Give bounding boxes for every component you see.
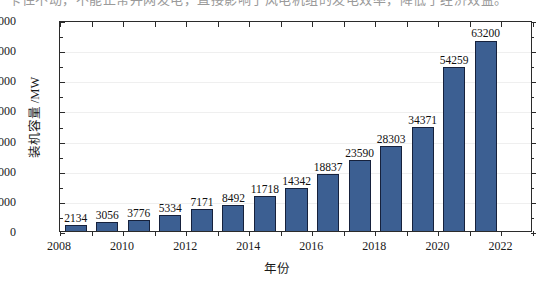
y-axis-tick-right: [531, 173, 536, 174]
bar: [285, 188, 307, 231]
bar-value-label: 63200: [451, 27, 521, 39]
bar: [443, 67, 465, 231]
y-axis-minor-tick-right: [531, 97, 534, 98]
bar: [222, 205, 244, 231]
bar: [475, 41, 497, 232]
plot-area: 2134305637765334717184921171814342188372…: [59, 21, 532, 232]
x-axis-tick-label: 2014: [218, 239, 278, 254]
bar: [254, 196, 276, 231]
x-axis-tick: [92, 231, 93, 236]
y-axis-tick-label: 10000: [0, 194, 16, 209]
x-axis-tick: [60, 231, 61, 236]
x-axis-tick: [281, 231, 282, 236]
y-axis-tick-label: 40000: [0, 104, 16, 119]
y-axis-tick-right: [531, 82, 536, 83]
x-axis-tick-label: 2022: [470, 239, 530, 254]
x-axis-title: 年份: [0, 258, 553, 277]
y-axis-tick-right: [531, 143, 536, 144]
x-axis-tick-label: 2020: [407, 239, 467, 254]
x-axis-tick: [375, 231, 376, 236]
bar: [96, 222, 118, 231]
x-axis-tick-label: 2018: [344, 239, 404, 254]
y-axis-tick-right: [531, 203, 536, 204]
x-axis-tick: [312, 231, 313, 236]
bar-chart-figure: 装机容量 /MW 年份 2134305637765334717184921171…: [0, 0, 553, 281]
y-axis-tick-right: [531, 112, 536, 113]
y-axis-tick-label: 0: [0, 225, 16, 240]
x-axis-tick: [407, 231, 408, 236]
bar: [128, 220, 150, 231]
x-axis-tick-top: [533, 22, 534, 27]
y-axis-tick-label: 60000: [0, 44, 16, 59]
y-axis-minor-tick-right: [531, 158, 534, 159]
x-axis-tick-label: 2016: [281, 239, 341, 254]
x-axis-tick: [123, 231, 124, 236]
x-axis-tick: [186, 231, 187, 236]
bar: [191, 209, 213, 231]
y-axis-title: 装机容量 /MW: [24, 38, 43, 198]
y-axis-tick-label: 20000: [0, 164, 16, 179]
x-axis-tick-label: 2010: [92, 239, 152, 254]
y-axis-minor-tick-right: [531, 188, 534, 189]
bar: [65, 225, 87, 231]
y-axis-tick-label: 50000: [0, 74, 16, 89]
x-axis-tick: [438, 231, 439, 236]
y-axis-minor-tick-right: [531, 128, 534, 129]
x-axis-tick: [533, 231, 534, 236]
x-axis-tick: [218, 231, 219, 236]
bar-series: 2134305637765334717184921171814342188372…: [60, 22, 531, 231]
x-axis-tick-label: 2008: [29, 239, 89, 254]
y-axis-tick-label: 30000: [0, 134, 16, 149]
y-axis-tick-label: 70000: [0, 14, 16, 29]
x-axis-tick: [249, 231, 250, 236]
bar: [317, 174, 339, 231]
x-axis-tick: [470, 231, 471, 236]
bar: [412, 127, 434, 231]
bar: [349, 160, 371, 231]
bar: [380, 146, 402, 231]
y-axis-minor-tick-right: [531, 67, 534, 68]
x-axis-tick: [501, 231, 502, 236]
x-axis-tick: [344, 231, 345, 236]
y-axis-minor-tick-right: [531, 37, 534, 38]
bar: [159, 215, 181, 231]
x-axis-tick: [155, 231, 156, 236]
y-axis-minor-tick-right: [531, 218, 534, 219]
x-axis-tick-label: 2012: [155, 239, 215, 254]
y-axis-tick-right: [531, 52, 536, 53]
